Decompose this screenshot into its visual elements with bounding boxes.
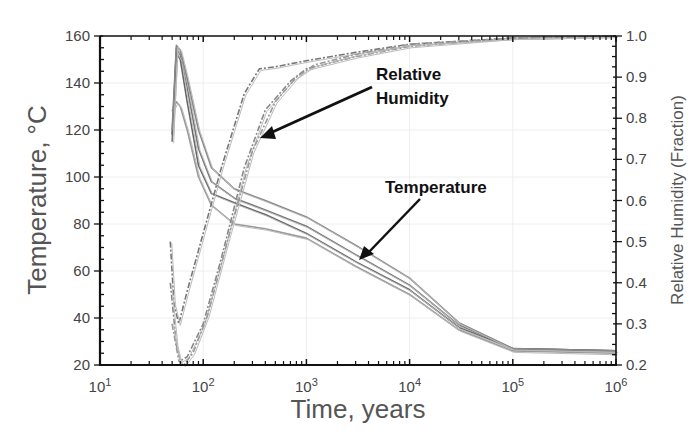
y2-tick-label: 0.5 xyxy=(626,233,647,250)
y-tick-label: 100 xyxy=(65,168,90,185)
y2-tick-label: 0.9 xyxy=(626,68,647,85)
arrow-relative-humidity xyxy=(268,87,372,134)
x-tick-label: 102 xyxy=(192,376,215,395)
y2-tick-label: 0.2 xyxy=(626,356,647,373)
y2-axis-title: Relative Humidity (Fraction) xyxy=(668,95,687,305)
x-tick-label: 105 xyxy=(501,376,524,395)
x-tick-label: 103 xyxy=(295,376,318,395)
arrow-temperature xyxy=(368,199,420,253)
axis-titles: Time, years Temperature, °C Relative Hum… xyxy=(22,95,687,424)
y-tick-label: 120 xyxy=(65,121,90,138)
relative-humidity-line-shadow xyxy=(174,38,618,367)
y-tick-label: 20 xyxy=(73,356,90,373)
y2-tick-label: 0.7 xyxy=(626,150,647,167)
annotation-relative-humidity-line1: Relative xyxy=(376,65,441,84)
y-tick-label: 160 xyxy=(65,27,90,44)
y-tick-label: 60 xyxy=(73,262,90,279)
y2-tick-label: 1.0 xyxy=(626,27,647,44)
y-axis-title: Temperature, °C xyxy=(22,105,52,295)
arrow-head-relative-humidity xyxy=(260,126,276,139)
temperature-line-shadow xyxy=(174,103,618,354)
annotation-temperature: Temperature xyxy=(385,178,487,197)
y-tick-label: 140 xyxy=(65,74,90,91)
y2-tick-label: 0.8 xyxy=(626,109,647,126)
x-tick-label: 106 xyxy=(605,376,628,395)
y2-tick-label: 0.4 xyxy=(626,274,647,291)
x-tick-label: 104 xyxy=(398,376,421,395)
y-tick-label: 40 xyxy=(73,309,90,326)
data-series xyxy=(170,36,617,367)
x-axis-title: Time, years xyxy=(291,394,426,424)
annotations: Relative Humidity Temperature xyxy=(260,65,487,260)
y2-tick-label: 0.3 xyxy=(626,315,647,332)
y2-tick-label: 0.6 xyxy=(626,192,647,209)
tick-labels: 204060801001201401600.20.30.40.50.60.70.… xyxy=(65,27,647,395)
x-tick-label: 101 xyxy=(89,376,112,395)
relative-humidity-line xyxy=(172,36,616,365)
y-tick-label: 80 xyxy=(73,215,90,232)
relative-humidity-line xyxy=(170,36,616,361)
chart: 204060801001201401600.20.30.40.50.60.70.… xyxy=(0,0,698,444)
annotation-relative-humidity-line2: Humidity xyxy=(376,89,449,108)
